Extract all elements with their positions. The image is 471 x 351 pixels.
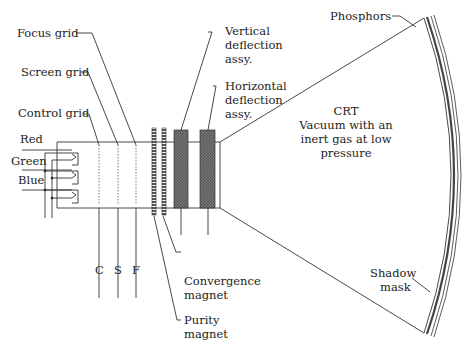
shadow-mask: [427, 17, 454, 334]
label-vertical-2: deflection: [225, 38, 283, 52]
horizontal-deflection-coil: [200, 130, 215, 208]
deflection-coils: [174, 130, 215, 235]
purity-magnet: [152, 128, 156, 215]
label-green: Green: [11, 154, 47, 168]
label-purity-2: magnet: [184, 327, 228, 341]
label-horizontal-3: assy.: [225, 107, 252, 121]
neck-tube: [57, 142, 220, 208]
label-s: S: [114, 263, 122, 277]
crt-diagram-svg: Focus grid Screen grid Control grid Red …: [0, 0, 471, 351]
crt-bulb: [220, 15, 461, 337]
label-horizontal-2: deflection: [225, 93, 283, 107]
label-vertical-1: Vertical: [224, 24, 270, 38]
label-c: C: [95, 263, 104, 277]
label-purity-1: Purity: [184, 313, 220, 327]
label-screen-grid: Screen grid: [21, 65, 90, 79]
label-crt-3: inert gas at low: [300, 132, 391, 146]
label-mask: mask: [380, 280, 412, 294]
label-convergence-1: Convergence: [184, 274, 261, 288]
label-focus-grid: Focus grid: [17, 26, 79, 40]
crt-diagram: Focus grid Screen grid Control grid Red …: [0, 0, 471, 351]
label-phosphors: Phosphors: [330, 9, 391, 23]
label-convergence-2: magnet: [184, 288, 228, 302]
magnets: [152, 128, 166, 215]
label-crt: CRT: [334, 104, 359, 118]
label-vertical-3: assy.: [225, 52, 252, 66]
label-f: F: [132, 263, 140, 277]
label-crt-4: pressure: [320, 146, 371, 160]
label-horizontal-1: Horizontal: [225, 79, 287, 93]
label-control-grid: Control grid: [18, 106, 90, 120]
label-blue: Blue: [18, 173, 45, 187]
vertical-deflection-coil: [174, 130, 188, 208]
label-crt-2: Vacuum with an: [298, 118, 393, 132]
label-shadow: Shadow: [370, 266, 416, 280]
label-red: Red: [20, 132, 43, 146]
convergence-magnet: [162, 128, 166, 215]
